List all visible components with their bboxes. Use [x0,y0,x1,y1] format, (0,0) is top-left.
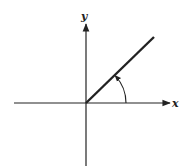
angle-arc-arrow-icon [116,76,127,103]
terminal-ray [86,37,154,103]
angle-diagram: x y [0,0,186,167]
y-axis-label: y [80,10,89,23]
x-axis-label: x [171,97,179,110]
